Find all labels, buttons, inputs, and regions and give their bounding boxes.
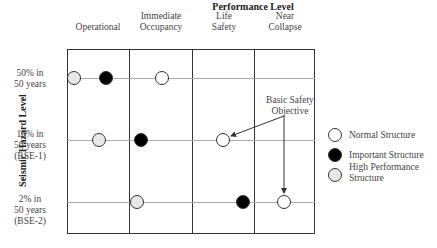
legend-line: Structure [349,173,419,184]
legend-normal-marker [328,128,342,142]
legend-high-performance-marker [328,168,342,182]
legend-high-performance-label: High Performance Structure [349,162,419,184]
legend-important-marker [328,148,342,162]
legend-important-label: Important Structure [349,150,424,161]
legend-normal-label: Normal Structure [349,130,415,141]
basic-safety-objective-arrows [0,0,437,248]
legend-line: High Performance [349,162,419,173]
